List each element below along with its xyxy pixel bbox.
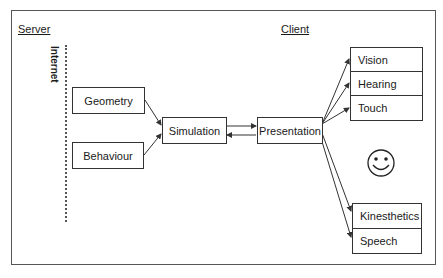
node-touch: Touch (350, 95, 423, 121)
node-vision: Vision (350, 47, 423, 72)
edge-presentation-speech (320, 135, 351, 237)
node-geometry-label: Geometry (84, 95, 132, 107)
node-kinesthetics: Kinesthetics (352, 203, 422, 229)
node-presentation: Presentation (257, 117, 323, 144)
node-kinesthetics-label: Kinesthetics (360, 210, 419, 222)
node-speech: Speech (352, 228, 422, 254)
node-simulation-label: Simulation (169, 125, 220, 137)
edge-presentation-vision (322, 59, 349, 124)
node-simulation: Simulation (162, 117, 227, 144)
node-behaviour-label: Behaviour (83, 150, 133, 162)
node-hearing: Hearing (350, 71, 423, 96)
edge-behaviour-simulation (144, 134, 161, 155)
node-behaviour: Behaviour (72, 142, 144, 169)
node-touch-label: Touch (358, 102, 387, 114)
node-speech-label: Speech (360, 235, 397, 247)
node-presentation-label: Presentation (259, 125, 321, 137)
edge-presentation-touch (322, 108, 349, 124)
edge-geometry-simulation (145, 100, 161, 125)
node-geometry: Geometry (72, 87, 145, 114)
edge-presentation-kinesthetics (322, 133, 351, 211)
edge-presentation-hearing (322, 83, 349, 124)
smiley-face-icon (368, 150, 394, 176)
node-vision-label: Vision (358, 54, 388, 66)
node-hearing-label: Hearing (358, 78, 397, 90)
